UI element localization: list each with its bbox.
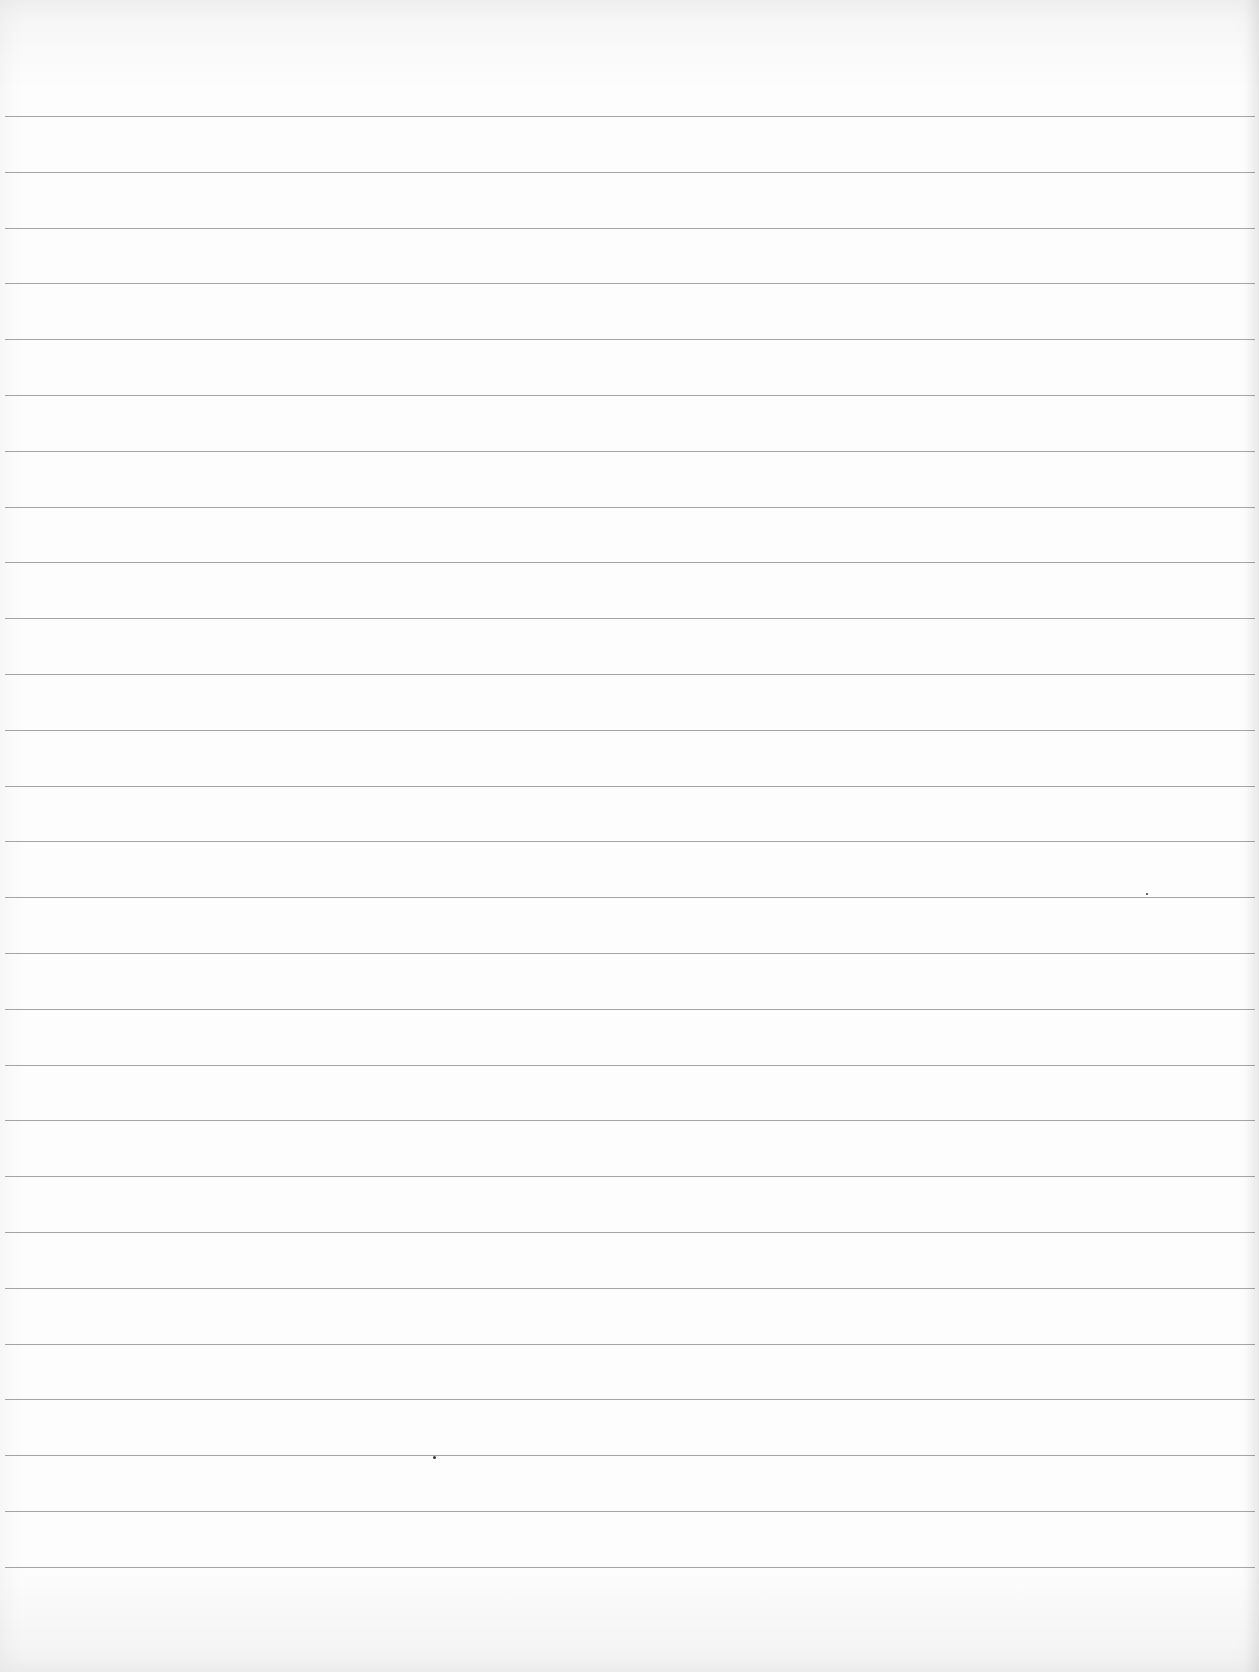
ruled-line (5, 451, 1255, 452)
ruled-line (5, 1567, 1255, 1568)
paper-speck (433, 1456, 436, 1459)
ruled-line (5, 228, 1255, 229)
ruled-line (5, 1009, 1255, 1010)
ruled-paper-sheet (0, 0, 1259, 1672)
paper-speck (1146, 893, 1148, 895)
ruled-line (5, 1288, 1255, 1289)
ruled-line (5, 395, 1255, 396)
ruled-line (5, 618, 1255, 619)
ruled-line (5, 730, 1255, 731)
ruled-line (5, 786, 1255, 787)
ruled-line (5, 1344, 1255, 1345)
ruled-line (5, 897, 1255, 898)
ruled-line (5, 1399, 1255, 1400)
ruled-line (5, 1232, 1255, 1233)
ruled-line (5, 1120, 1255, 1121)
ruled-line (5, 507, 1255, 508)
ruled-line (5, 841, 1255, 842)
ruled-line (5, 116, 1255, 117)
ruled-line (5, 1511, 1255, 1512)
ruled-line (5, 172, 1255, 173)
ruled-line (5, 283, 1255, 284)
ruled-line (5, 674, 1255, 675)
ruled-line (5, 562, 1255, 563)
ruled-line (5, 1065, 1255, 1066)
ruled-line (5, 953, 1255, 954)
ruled-line (5, 1176, 1255, 1177)
ruled-lines (0, 0, 1259, 1672)
ruled-line (5, 1455, 1255, 1456)
ruled-line (5, 339, 1255, 340)
